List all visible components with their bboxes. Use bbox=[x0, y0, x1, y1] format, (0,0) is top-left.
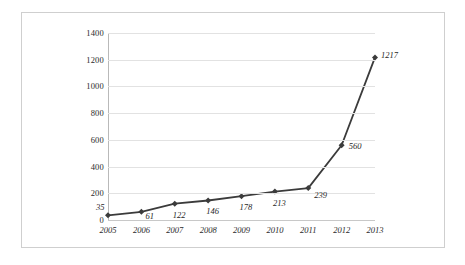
data-point-label: 35 bbox=[96, 202, 105, 212]
x-axis-tick-label: 2008 bbox=[200, 225, 217, 235]
chart-frame: 0200400600800100012001400 35611221461782… bbox=[21, 12, 445, 248]
y-axis-tick-label: 1200 bbox=[86, 55, 104, 65]
x-axis-tick-labels: 200520062007200820092010201120122013 bbox=[108, 225, 375, 241]
x-axis-tick-label: 2007 bbox=[166, 225, 183, 235]
y-axis-tick-label: 600 bbox=[91, 135, 104, 145]
y-axis-tick-label: 200 bbox=[91, 188, 104, 198]
data-point-labels: 35611221461782132395601217 bbox=[108, 33, 375, 220]
data-point-label: 1217 bbox=[381, 50, 398, 60]
x-axis-tick-label: 2005 bbox=[100, 225, 117, 235]
x-axis-tick-label: 2010 bbox=[266, 225, 283, 235]
y-axis-tick-label: 1400 bbox=[86, 28, 104, 38]
x-axis-tick-label: 2012 bbox=[333, 225, 350, 235]
data-point-label: 239 bbox=[314, 190, 327, 200]
x-axis-tick-label: 2011 bbox=[300, 225, 316, 235]
chart-figure: 0200400600800100012001400 35611221461782… bbox=[0, 0, 465, 265]
data-point-label: 213 bbox=[273, 198, 286, 208]
y-axis-tick-label: 800 bbox=[91, 108, 104, 118]
x-axis-tick-label: 2013 bbox=[367, 225, 384, 235]
data-point-label: 178 bbox=[240, 202, 253, 212]
y-axis-tick-labels: 0200400600800100012001400 bbox=[61, 33, 104, 220]
data-point-label: 146 bbox=[206, 206, 219, 216]
y-axis-tick-label: 0 bbox=[100, 215, 104, 225]
y-axis-tick-label: 1000 bbox=[86, 81, 104, 91]
data-point-label: 122 bbox=[173, 210, 186, 220]
x-axis-tick-label: 2009 bbox=[233, 225, 250, 235]
data-point-label: 560 bbox=[349, 141, 362, 151]
data-point-label: 61 bbox=[145, 211, 154, 221]
y-axis-tick-label: 400 bbox=[91, 162, 104, 172]
x-axis-tick-label: 2006 bbox=[133, 225, 150, 235]
